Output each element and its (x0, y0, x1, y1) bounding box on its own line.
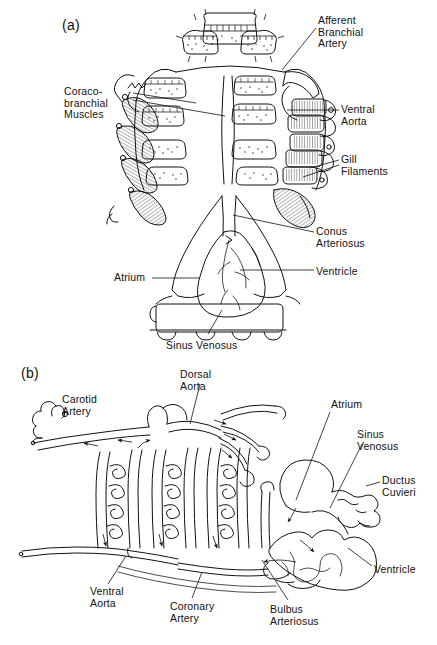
heart-group-b (261, 460, 380, 590)
ventral-aorta-group (19, 547, 276, 593)
gill-loops-group (96, 448, 250, 558)
panel-a-artwork (107, 9, 339, 340)
hyoid-arch-group (176, 9, 284, 62)
figure-linework (0, 0, 437, 645)
panel-b-artwork (19, 384, 380, 600)
heart-group-a (150, 196, 300, 340)
anatomical-figure: (a) (b) Afferent Branchial Artery Coraco… (0, 0, 437, 645)
leader-lines-b (108, 384, 380, 600)
gill-arch-cartilages-right (232, 76, 278, 185)
panel-b-id: (b) (21, 365, 39, 381)
carotid-artery-group (31, 402, 67, 445)
panel-a-id: (a) (62, 17, 80, 33)
gill-filaments-right (274, 72, 336, 228)
